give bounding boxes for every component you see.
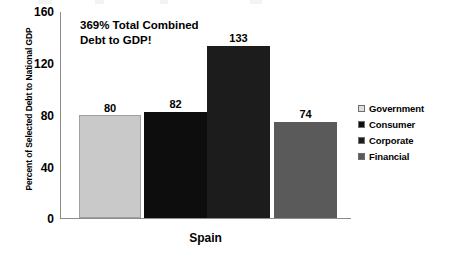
legend-item-consumer[interactable]: Consumer	[358, 117, 424, 132]
y-tick-120: 120	[22, 58, 54, 70]
legend-label-consumer: Consumer	[369, 119, 415, 130]
clipped-title-artifact	[0, 0, 452, 4]
x-axis-label: Spain	[60, 231, 351, 245]
y-tick-0: 0	[22, 213, 54, 225]
legend-label-financial: Financial	[369, 151, 409, 162]
y-tick-80: 80	[22, 110, 54, 122]
legend-item-government[interactable]: Government	[358, 101, 424, 116]
bar-chart: Percent of Selected Debt to National GDP…	[0, 0, 452, 262]
legend-item-corporate[interactable]: Corporate	[358, 133, 424, 148]
bar-corporate[interactable]: 133	[207, 46, 270, 218]
bar-value-consumer: 82	[144, 98, 207, 112]
chart-legend: Government Consumer Corporate Financial	[358, 101, 424, 165]
chart-annotation: 369% Total Combined Debt to GDP!	[80, 18, 199, 48]
legend-swatch-government	[358, 105, 365, 112]
bar-value-financial: 74	[274, 108, 337, 122]
y-tick-160: 160	[22, 6, 54, 18]
legend-item-financial[interactable]: Financial	[358, 149, 424, 164]
legend-swatch-consumer	[358, 121, 365, 128]
legend-swatch-financial	[358, 153, 365, 160]
bar-value-corporate: 133	[207, 32, 270, 46]
bar-value-government: 80	[80, 102, 140, 116]
bar-financial[interactable]: 74	[274, 122, 337, 218]
legend-swatch-corporate	[358, 137, 365, 144]
legend-label-corporate: Corporate	[369, 135, 414, 146]
bar-government[interactable]: 80	[79, 115, 141, 219]
y-axis-tick-labels: 160 120 80 40 0	[22, 0, 54, 262]
bar-consumer[interactable]: 82	[144, 112, 207, 218]
legend-label-government: Government	[369, 103, 424, 114]
y-tick-40: 40	[22, 162, 54, 174]
